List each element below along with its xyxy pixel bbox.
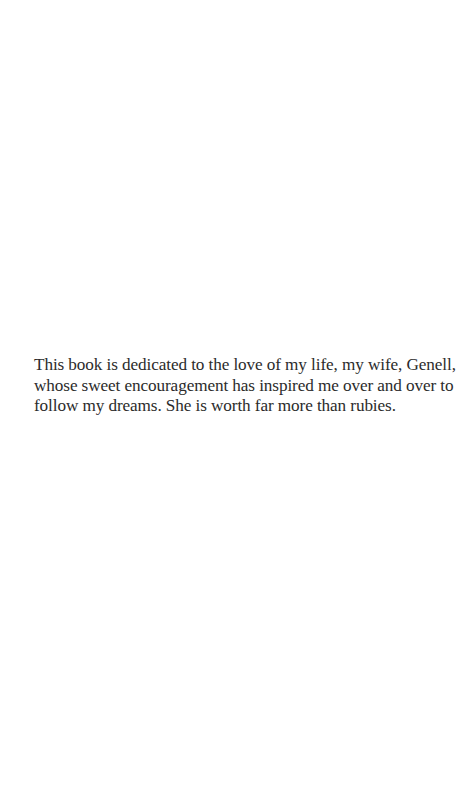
dedication-line-1: This book is dedicated to the love of my… [34, 355, 444, 376]
dedication-paragraph: This book is dedicated to the love of my… [34, 355, 444, 417]
book-page: This book is dedicated to the love of my… [0, 0, 476, 786]
dedication-line-2: whose sweet encouragement has inspired m… [34, 376, 444, 397]
dedication-line-3: follow my dreams. She is worth far more … [34, 396, 444, 417]
